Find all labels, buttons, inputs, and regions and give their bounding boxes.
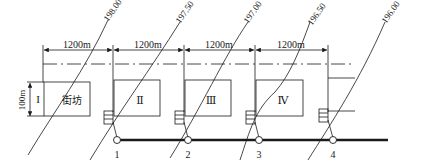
sewer-layout-diagram: 1200m 1200m 1200m 1200m 100m I 街坊 Ⅱ Ⅲ Ⅳ …	[0, 0, 422, 168]
block-label-IV: Ⅳ	[278, 94, 290, 106]
contour-label-198: 198.00	[101, 0, 124, 23]
node-label-2: 2	[186, 149, 191, 160]
block-height-label: 100m	[17, 90, 27, 111]
block-label-II: Ⅱ	[136, 94, 143, 106]
block-label-I: I	[36, 93, 40, 105]
contour-label-196: 196.00	[379, 0, 402, 25]
contour-label-196-50: 196.50	[305, 1, 328, 27]
node-label-1: 1	[115, 149, 120, 160]
manhole-node-4	[330, 137, 337, 144]
contour-label-197: 197.00	[241, 0, 264, 25]
manhole-node-2	[185, 137, 192, 144]
manhole-node-1	[114, 137, 121, 144]
node-label-3: 3	[257, 149, 262, 160]
dimension-label-2: 1200m	[134, 39, 162, 50]
contour-label-197-50: 197.50	[173, 0, 196, 25]
dimension-label-1: 1200m	[63, 39, 91, 50]
inlet-grate-2	[175, 111, 184, 124]
block-inner-label: 街坊	[62, 94, 82, 106]
manhole-node-3	[256, 137, 263, 144]
dimension-label-3: 1200m	[205, 39, 233, 50]
dimension-label-4: 1200m	[277, 39, 305, 50]
inlet-grate-1	[104, 111, 113, 124]
block-label-III: Ⅲ	[206, 94, 217, 106]
node-label-4: 4	[331, 149, 336, 160]
inlet-grate-4	[319, 109, 328, 122]
